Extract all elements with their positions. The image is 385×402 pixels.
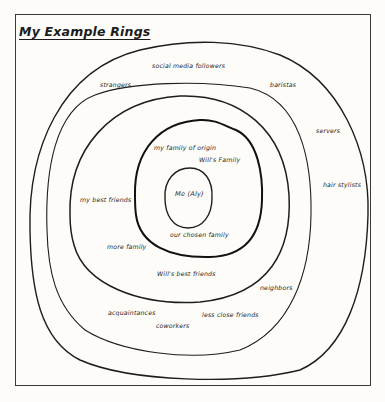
label-my-family-of-origin: my family of origin xyxy=(154,144,216,151)
label-wills-best-friends: Will's best friends xyxy=(157,270,216,277)
label-servers: servers xyxy=(316,127,340,134)
label-hair-stylists: hair stylists xyxy=(323,181,361,188)
label-social-media-followers: social media followers xyxy=(152,62,225,69)
label-less-close-friends: less close friends xyxy=(202,311,259,318)
label-wills-family: Will's Family xyxy=(199,156,240,163)
label-neighbors: neighbors xyxy=(260,284,293,291)
label-our-chosen-family: our chosen family xyxy=(170,231,229,238)
label-me: Me (Aly) xyxy=(175,190,204,198)
ring-center xyxy=(165,168,212,228)
label-more-family: more family xyxy=(107,243,146,250)
rings-drawing xyxy=(0,0,385,402)
label-my-best-friends: my best friends xyxy=(80,196,131,203)
diagram-title: My Example Rings xyxy=(19,24,150,39)
label-acquaintances: acquaintances xyxy=(108,309,156,316)
label-coworkers: coworkers xyxy=(156,322,190,329)
label-baristas: baristas xyxy=(270,81,296,88)
label-strangers: strangers xyxy=(100,81,131,88)
ring-outer xyxy=(30,42,368,379)
